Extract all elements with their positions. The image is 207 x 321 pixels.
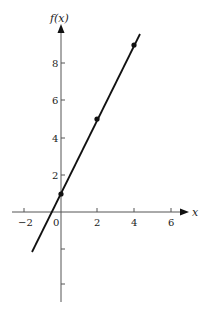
function-line (32, 34, 140, 252)
y-ticks (61, 63, 65, 284)
data-point (131, 42, 136, 47)
y-tick-label: 8 (52, 58, 58, 69)
data-point (94, 116, 99, 121)
x-ticks (24, 208, 171, 212)
x-tick-label: 6 (168, 217, 174, 228)
x-tick-label: 4 (131, 217, 137, 228)
x-axis-label: x (192, 206, 199, 219)
y-tick-label: 4 (52, 133, 58, 144)
x-tick-label: 2 (94, 217, 100, 228)
x-tick-label: 0 (53, 217, 59, 228)
y-tick-label: 2 (52, 170, 58, 181)
x-axis-arrow-icon (180, 209, 189, 216)
data-point (58, 191, 63, 196)
x-tick-label: −2 (18, 217, 33, 228)
chart-canvas: −2 0 2 4 6 8 6 4 2 f(x) x (0, 0, 207, 321)
y-axis-arrow-icon (58, 24, 65, 33)
y-tick-label: 6 (52, 95, 58, 106)
y-axis-label: f(x) (49, 12, 69, 25)
